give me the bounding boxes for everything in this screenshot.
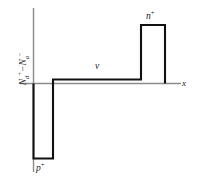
doping-profile-curve — [34, 25, 166, 159]
y-axis-label-na-sub: a — [23, 56, 30, 59]
p-plus-region-label: p+ — [36, 162, 44, 174]
n-plus-region-label: n+ — [146, 10, 154, 22]
y-axis-label-nd-base: N — [18, 79, 28, 85]
n-plus-label-sup: + — [151, 9, 155, 16]
doping-profile-figure: x Nd+−Na− p+ ν n+ — [0, 0, 197, 185]
y-axis-label-na-sup: − — [16, 52, 23, 56]
y-axis-label-nd-sup: + — [16, 72, 23, 76]
nu-region-label: ν — [95, 62, 99, 72]
y-axis-label: Nd+−Na− — [17, 36, 31, 102]
p-plus-label-sup: + — [41, 161, 45, 168]
x-axis-label: x — [182, 79, 186, 88]
y-axis-label-minus: − — [18, 66, 28, 72]
y-axis-label-na-base: N — [18, 59, 28, 65]
y-axis-label-nd-sub: d — [23, 76, 30, 79]
